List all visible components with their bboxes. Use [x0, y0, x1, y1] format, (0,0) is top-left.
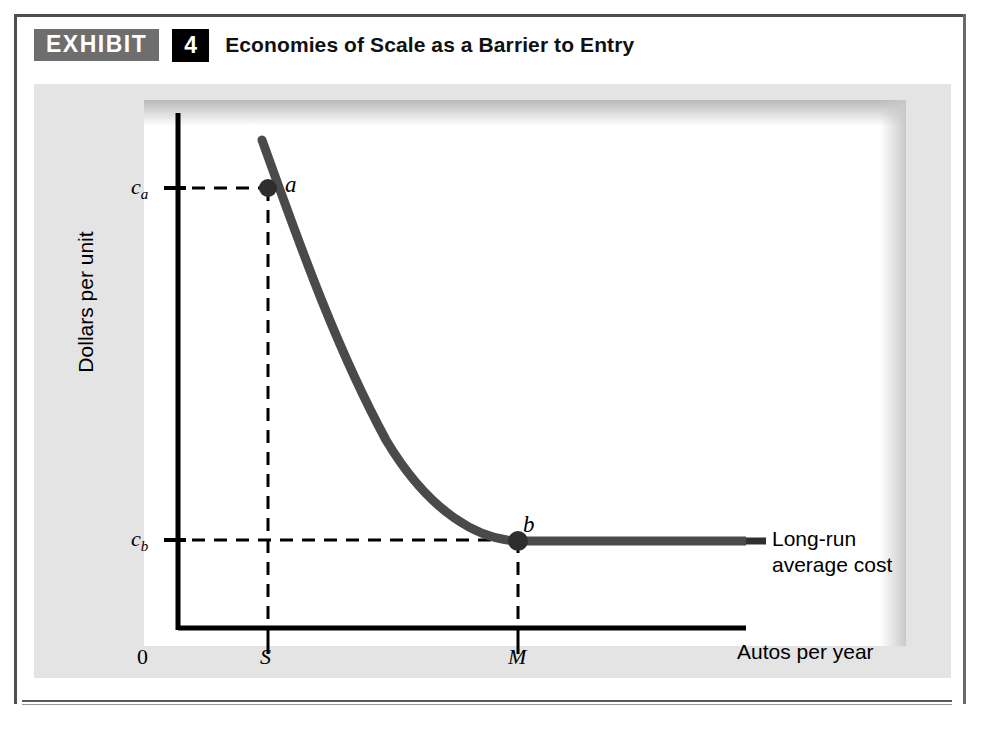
lrac-annotation-line2: average cost	[772, 552, 892, 578]
exhibit-container: EXHIBIT 4 Economies of Scale as a Barrie…	[0, 0, 981, 731]
y-tick-label-ca: ca	[131, 174, 148, 203]
x-tick-label-origin: 0	[137, 644, 148, 670]
point-label-b: b	[523, 512, 535, 538]
x-tick-label-s: S	[260, 644, 271, 670]
y-tick-label-cb-sub: b	[141, 538, 149, 554]
point-label-a: a	[285, 172, 297, 198]
page-border-left	[14, 14, 17, 704]
y-tick-label-ca-sub: a	[141, 186, 149, 202]
x-axis-title: Autos per year	[737, 640, 874, 664]
lrac-curve-declining	[262, 140, 518, 541]
y-axis-title: Dollars per unit	[74, 202, 98, 402]
exhibit-badge: EXHIBIT	[34, 29, 159, 61]
x-tick-label-m: M	[508, 644, 526, 670]
lrac-annotation-line1: Long-run	[772, 526, 892, 552]
lrac-chart	[34, 84, 951, 678]
page-divider-rule	[22, 700, 952, 702]
page-border-top	[14, 14, 966, 17]
page-divider-rule-secondary	[22, 704, 952, 705]
exhibit-number: 4	[172, 29, 209, 62]
exhibit-title: Economies of Scale as a Barrier to Entry	[225, 33, 634, 57]
y-tick-label-cb: cb	[131, 526, 148, 555]
exhibit-header: EXHIBIT 4 Economies of Scale as a Barrie…	[34, 28, 634, 62]
page-border-right	[963, 14, 966, 704]
y-tick-label-ca-base: c	[131, 174, 141, 199]
lrac-annotation: Long-run average cost	[772, 526, 892, 579]
data-point-a	[259, 179, 277, 197]
y-tick-label-cb-base: c	[131, 526, 141, 551]
